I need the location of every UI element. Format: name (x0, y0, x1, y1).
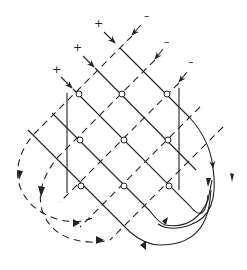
dashed-arrow-2 (38, 186, 45, 197)
input-arrow-3 (61, 77, 72, 88)
solid-line-2 (95, 68, 196, 170)
dashed-line-1 (18, 36, 132, 222)
node-circle (166, 183, 172, 189)
loop-arrow-2 (206, 178, 211, 187)
node-circle (77, 137, 83, 143)
node-circle (165, 137, 171, 143)
dashed-line-2 (40, 60, 155, 242)
node-circle (121, 137, 127, 143)
loop-arrow-1 (230, 173, 234, 182)
input-arrow-2 (83, 56, 94, 67)
plus-label-3: + (52, 64, 61, 75)
minus-label-1: – (144, 10, 150, 21)
dashed-arrow-4 (96, 236, 104, 244)
input-arrow-5 (155, 49, 163, 59)
dashed-line-4 (80, 107, 200, 227)
loop-arrow-4 (140, 241, 146, 250)
node-circle (78, 183, 84, 189)
input-arrow-6 (179, 72, 187, 82)
input-arrow-1 (104, 32, 115, 43)
node-circle (76, 91, 82, 97)
dashed-arrow-3 (73, 219, 80, 227)
node-circle (121, 183, 127, 189)
winding-diagram: + + + – – – (0, 0, 247, 270)
plus-label-1: + (94, 18, 103, 29)
diagram-svg (0, 0, 247, 270)
node-circle (164, 91, 170, 97)
node-circle (119, 91, 125, 97)
minus-label-3: – (188, 56, 194, 67)
minus-label-2: – (164, 36, 170, 47)
dashed-line-5 (110, 127, 223, 240)
plus-label-2: + (73, 42, 82, 53)
input-arrow-4 (132, 25, 141, 35)
solid-loop-2 (150, 180, 212, 226)
